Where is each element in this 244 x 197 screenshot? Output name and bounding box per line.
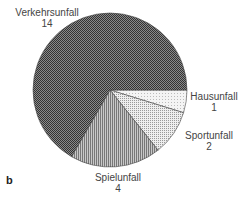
label-hausunfall: Hausunfall 1 [186, 91, 242, 113]
label-value: 14 [12, 18, 82, 29]
label-name: Spielunfall [88, 172, 148, 183]
label-value: 1 [186, 102, 242, 113]
panel-label: b [6, 174, 13, 186]
label-spielunfall: Spielunfall 4 [88, 172, 148, 194]
label-name: Hausunfall [186, 91, 242, 102]
label-sportunfall: Sportunfall 2 [178, 130, 240, 152]
label-name: Verkehrsunfall [12, 7, 82, 18]
label-value: 4 [88, 183, 148, 194]
label-value: 2 [178, 141, 240, 152]
label-name: Sportunfall [178, 130, 240, 141]
label-verkehrsunfall: Verkehrsunfall 14 [12, 7, 82, 29]
